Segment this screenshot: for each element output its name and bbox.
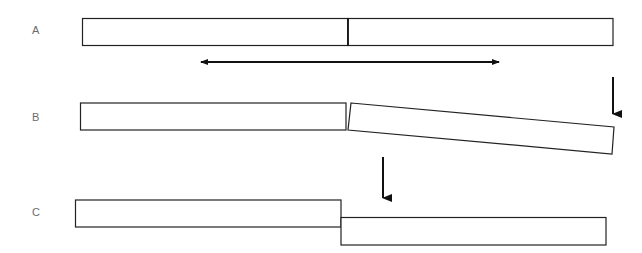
beam-c-left-segment	[76, 200, 342, 227]
beam-diagram	[0, 0, 642, 253]
beam-a-right-segment	[348, 19, 613, 46]
beam-c-right-segment-offset	[341, 218, 606, 246]
beam-a-left-segment	[83, 19, 349, 46]
beam-a	[83, 19, 614, 46]
beam-c	[76, 200, 607, 245]
beam-b	[81, 103, 615, 154]
beam-b-left-segment	[81, 103, 347, 130]
beam-b-right-segment-tilted	[348, 103, 614, 154]
